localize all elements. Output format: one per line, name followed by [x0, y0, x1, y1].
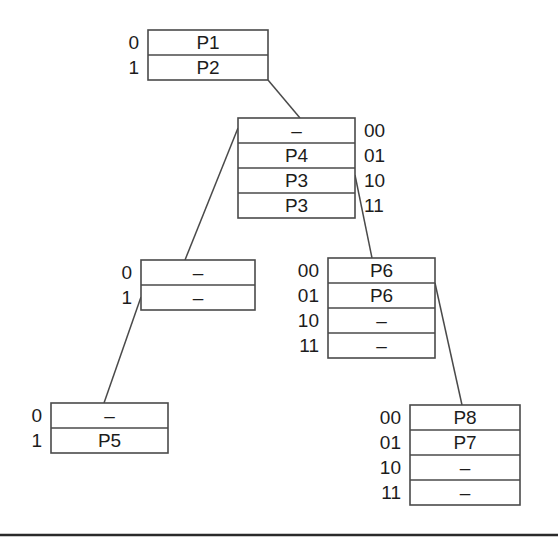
- edge-left-mid-to-left-leaf: [104, 297, 141, 403]
- row-index-label: 10: [364, 170, 385, 191]
- right-mid-table: P600P601–10–11: [298, 258, 435, 358]
- row-index-label: 1: [128, 57, 139, 78]
- cell-value: –: [193, 287, 204, 308]
- cell-value: P6: [370, 260, 393, 281]
- cell-value: P2: [196, 57, 219, 78]
- left-leaf-table: –0P51: [31, 403, 168, 453]
- level2-table: –00P401P310P311: [238, 118, 385, 218]
- row-index-label: 00: [298, 260, 319, 281]
- cell-value: –: [376, 335, 387, 356]
- cell-value: –: [104, 405, 115, 426]
- cell-value: –: [193, 262, 204, 283]
- row-index-label: 1: [31, 430, 42, 451]
- edge-level2-to-left-mid: [185, 128, 238, 260]
- row-index-label: 01: [298, 285, 319, 306]
- diagram-canvas: P10P21–00P401P310P311–0–1P600P601–10–11–…: [0, 0, 558, 542]
- edge-root-to-level2: [268, 80, 300, 118]
- cell-value: P4: [285, 145, 309, 166]
- row-index-label: 01: [380, 432, 401, 453]
- row-index-label: 1: [121, 287, 132, 308]
- cell-value: P7: [453, 432, 476, 453]
- row-index-label: 11: [381, 482, 401, 503]
- root-table: P10P21: [128, 30, 268, 80]
- row-index-label: 0: [128, 32, 139, 53]
- row-index-label: 00: [364, 120, 385, 141]
- cell-value: –: [291, 120, 302, 141]
- cell-value: P6: [370, 285, 393, 306]
- cell-value: –: [460, 482, 471, 503]
- row-index-label: 11: [364, 195, 384, 216]
- cell-value: P1: [196, 32, 219, 53]
- edge-right-mid-to-right-leaf: [435, 283, 462, 405]
- row-index-label: 0: [121, 262, 132, 283]
- nodes-layer: P10P21–00P401P310P311–0–1P600P601–10–11–…: [31, 30, 520, 505]
- cell-value: P8: [453, 407, 476, 428]
- row-index-label: 0: [31, 405, 42, 426]
- row-index-label: 01: [364, 145, 385, 166]
- page-table-diagram: P10P21–00P401P310P311–0–1P600P601–10–11–…: [0, 0, 558, 542]
- cell-value: P3: [285, 170, 308, 191]
- right-leaf-table: P800P701–10–11: [380, 405, 520, 505]
- cell-value: –: [460, 457, 471, 478]
- row-index-label: 00: [380, 407, 401, 428]
- cell-value: P3: [285, 195, 308, 216]
- row-index-label: 10: [380, 457, 401, 478]
- cell-value: P5: [98, 430, 121, 451]
- row-index-label: 10: [298, 310, 319, 331]
- left-mid-table: –0–1: [121, 260, 255, 310]
- cell-value: –: [376, 310, 387, 331]
- row-index-label: 11: [299, 335, 319, 356]
